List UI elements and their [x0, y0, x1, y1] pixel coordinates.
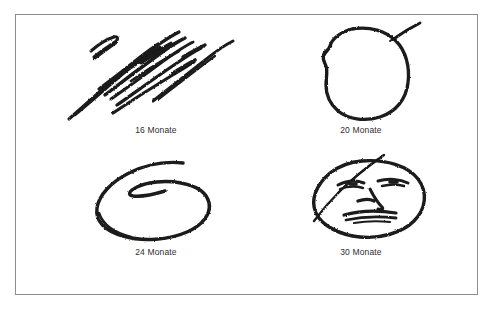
- panel-caption-20-monate: 20 Monate: [266, 125, 456, 135]
- panel-caption-16-monate: 16 Monate: [61, 125, 251, 135]
- drawing-panel-30-monate: 30 Monate: [266, 155, 456, 283]
- drawing-panel-24-monate: 24 Monate: [61, 155, 251, 283]
- figure-plate: 16 Monate 20 Monate: [15, 14, 478, 295]
- closed-blob-outline-drawing: [266, 19, 456, 123]
- panel-caption-30-monate: 30 Monate: [266, 247, 456, 257]
- drawing-panel-20-monate: 20 Monate: [266, 19, 456, 149]
- face-with-features-drawing: [266, 155, 456, 245]
- drawing-panel-16-monate: 16 Monate: [61, 19, 251, 149]
- scribble-diagonal-strokes-drawing: [61, 19, 251, 123]
- panel-caption-24-monate: 24 Monate: [61, 247, 251, 257]
- spiral-oval-drawing: [61, 155, 251, 245]
